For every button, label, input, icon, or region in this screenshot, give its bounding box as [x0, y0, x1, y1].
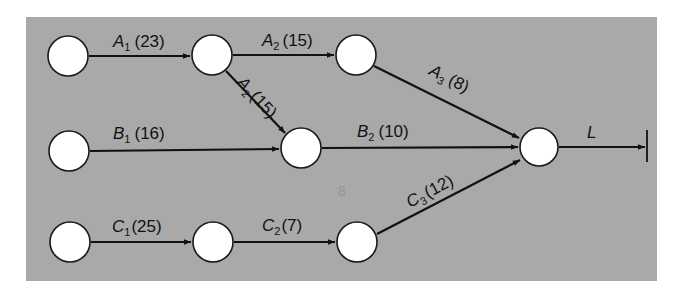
- label-c1: C1(25): [112, 217, 162, 238]
- node-a1-end: [192, 35, 232, 75]
- label-c2: C2(7): [262, 216, 302, 237]
- node-b-start: [49, 131, 89, 171]
- scan-artifact: 8: [338, 183, 346, 199]
- label-l: L: [587, 123, 596, 142]
- node-c2-end: [337, 222, 377, 262]
- node-a2-end: [336, 35, 376, 75]
- node-a-start: [48, 36, 88, 76]
- label-b2: B2(10): [357, 122, 409, 143]
- network-diagram: 8 A1(23) A2(15) A2(15) A3(8) B1(16) B2(1…: [0, 0, 685, 296]
- node-b-merge: [281, 128, 321, 168]
- label-a1: A1(23): [112, 32, 165, 53]
- node-final-merge: [520, 128, 558, 166]
- edge-b2: [322, 147, 518, 148]
- node-c-start: [50, 222, 90, 262]
- node-c1-end: [193, 222, 233, 262]
- label-a2-top: A2(15): [261, 31, 313, 52]
- label-b1: B1(16): [113, 124, 165, 145]
